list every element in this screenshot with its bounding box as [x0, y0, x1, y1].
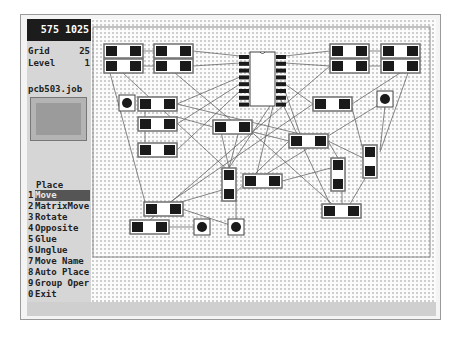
ic-pin [239, 103, 249, 107]
pad [332, 46, 343, 56]
ic-pin [276, 62, 286, 66]
ic-pin [276, 82, 286, 86]
pad [140, 119, 151, 129]
pad [332, 61, 343, 71]
pad [365, 166, 375, 176]
pad [324, 206, 335, 216]
ic-notch [260, 52, 265, 53]
pad [156, 222, 167, 232]
ic-pin [239, 96, 249, 100]
pad [164, 99, 175, 109]
pad [291, 136, 302, 146]
pad [132, 222, 143, 232]
pcb-board-drawing[interactable] [0, 0, 458, 340]
ic-pin [276, 96, 286, 100]
pad [215, 122, 226, 132]
pad [106, 61, 117, 71]
ic-pin [276, 69, 286, 73]
pad [348, 206, 359, 216]
components-layer [104, 44, 420, 235]
pad [170, 204, 181, 214]
pad [245, 176, 256, 186]
pad [315, 136, 326, 146]
pad [239, 122, 250, 132]
pad [333, 179, 343, 189]
pad [356, 46, 367, 56]
ic-pin [239, 89, 249, 93]
ic-pin [239, 62, 249, 66]
pad [365, 147, 375, 157]
pad [156, 46, 167, 56]
pad [407, 61, 418, 71]
pad [164, 145, 175, 155]
pad [130, 46, 141, 56]
ic-pin [276, 103, 286, 107]
ic-pin [239, 55, 249, 59]
pad [407, 46, 418, 56]
via-pad [231, 222, 241, 232]
pad [315, 99, 326, 109]
pad [356, 61, 367, 71]
pad [383, 46, 394, 56]
ic-pin [239, 75, 249, 79]
pad [140, 99, 151, 109]
pad [146, 204, 157, 214]
ic-pin [276, 55, 286, 59]
pad [180, 46, 191, 56]
ic-pin [239, 69, 249, 73]
pad [106, 46, 117, 56]
pad [164, 119, 175, 129]
pad [269, 176, 280, 186]
pad [224, 189, 234, 199]
pad [333, 160, 343, 170]
pad [224, 170, 234, 180]
via-pad [380, 94, 390, 104]
pad [339, 99, 350, 109]
pad [383, 61, 394, 71]
ic-pin [239, 82, 249, 86]
ic-pin [276, 89, 286, 93]
pad [180, 61, 191, 71]
ic-pin [276, 75, 286, 79]
via-pad [197, 222, 207, 232]
component-ic[interactable] [250, 52, 275, 106]
pad [140, 145, 151, 155]
pad [130, 61, 141, 71]
pad [156, 61, 167, 71]
via-pad [122, 98, 132, 108]
